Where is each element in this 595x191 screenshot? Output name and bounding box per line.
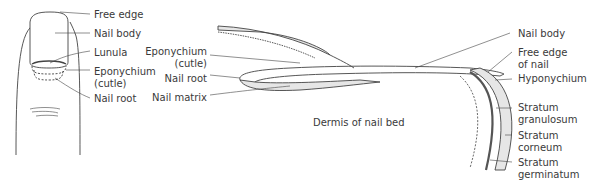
label-nail-body: Nail body (94, 28, 141, 40)
label-lunula: Lunula (94, 47, 127, 59)
label-stratum-germinatum-line1: Stratum (518, 157, 579, 169)
label-hyponychium: Hyponychium (518, 73, 587, 85)
label-eponychium-section-line2: (cutle) (140, 58, 207, 70)
label-free-edge-line1: Free edge (518, 47, 567, 59)
label-stratum-corneum-line1: Stratum (518, 130, 562, 142)
label-nail-root-section: Nail root (140, 73, 207, 85)
label-stratum-corneum: Stratum corneum (518, 130, 562, 153)
fingertip-illustration (16, 12, 90, 155)
label-free-edge-line2: of nail (518, 59, 567, 71)
label-stratum-granulosum-line2: granulosum (518, 114, 577, 126)
label-eponychium-section-line1: Eponychium (140, 46, 207, 58)
label-stratum-granulosum-line1: Stratum (518, 102, 577, 114)
label-free-edge-of-nail: Free edge of nail (518, 47, 567, 70)
label-stratum-germinatum: Stratum germinatum (518, 157, 579, 180)
label-dermis: Dermis of nail bed (313, 117, 405, 129)
label-stratum-granulosum: Stratum granulosum (518, 102, 577, 125)
label-stratum-germinatum-line2: germinatum (518, 169, 579, 181)
label-nail-matrix: Nail matrix (130, 92, 207, 104)
label-stratum-corneum-line2: corneum (518, 142, 562, 154)
nail-anatomy-diagram (0, 0, 595, 191)
label-free-edge: Free edge (94, 9, 143, 21)
label-nail-body-section: Nail body (518, 28, 565, 40)
label-eponychium-section: Eponychium (cutle) (140, 46, 207, 69)
nail-cross-section (218, 26, 512, 170)
